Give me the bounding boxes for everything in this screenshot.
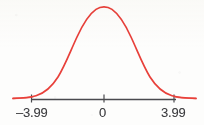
x-tick-label-left: –3.99 [16, 106, 48, 119]
x-tick-label-right: 3.99 [161, 106, 186, 119]
normal-curve [13, 7, 196, 99]
normal-distribution-figure: –3.99 0 3.99 [0, 0, 204, 125]
x-tick-label-center: 0 [99, 106, 106, 119]
